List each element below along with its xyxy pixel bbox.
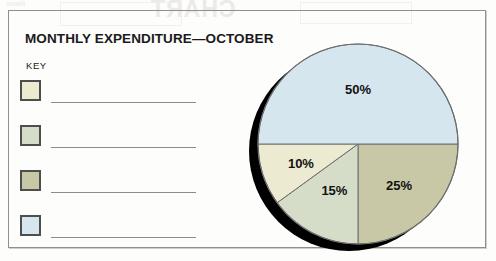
legend-write-line-1[interactable] bbox=[51, 102, 196, 103]
legend-swatch-4 bbox=[20, 215, 41, 236]
legend-item bbox=[20, 215, 220, 260]
pie-slice-label: 15% bbox=[321, 183, 347, 198]
pie-chart-svg: 25%15%10%50% bbox=[245, 33, 460, 253]
page-title: MONTHLY EXPENDITURE—OCTOBER bbox=[25, 31, 273, 46]
pie-slice-label: 25% bbox=[386, 178, 412, 193]
legend-write-line-3[interactable] bbox=[51, 192, 196, 193]
pie-slice-label: 50% bbox=[345, 82, 371, 97]
chart-card: MONTHLY EXPENDITURE—OCTOBER KEY 25%15%10… bbox=[8, 10, 486, 248]
legend-item bbox=[20, 80, 220, 125]
pie-slice-label: 10% bbox=[288, 156, 314, 171]
legend-write-line-2[interactable] bbox=[51, 147, 196, 148]
legend-item bbox=[20, 170, 220, 215]
pie-slice[interactable] bbox=[358, 144, 458, 244]
pie-chart: 25%15%10%50% bbox=[245, 33, 460, 253]
scan-bleed-small-text: Name bbox=[6, 0, 25, 7]
legend-swatch-1 bbox=[20, 80, 41, 101]
legend-swatch-3 bbox=[20, 170, 41, 191]
legend-write-line-4[interactable] bbox=[51, 237, 196, 238]
legend-swatch-2 bbox=[20, 125, 41, 146]
key-label: KEY bbox=[26, 60, 47, 71]
legend-item bbox=[20, 125, 220, 170]
legend bbox=[20, 80, 220, 260]
